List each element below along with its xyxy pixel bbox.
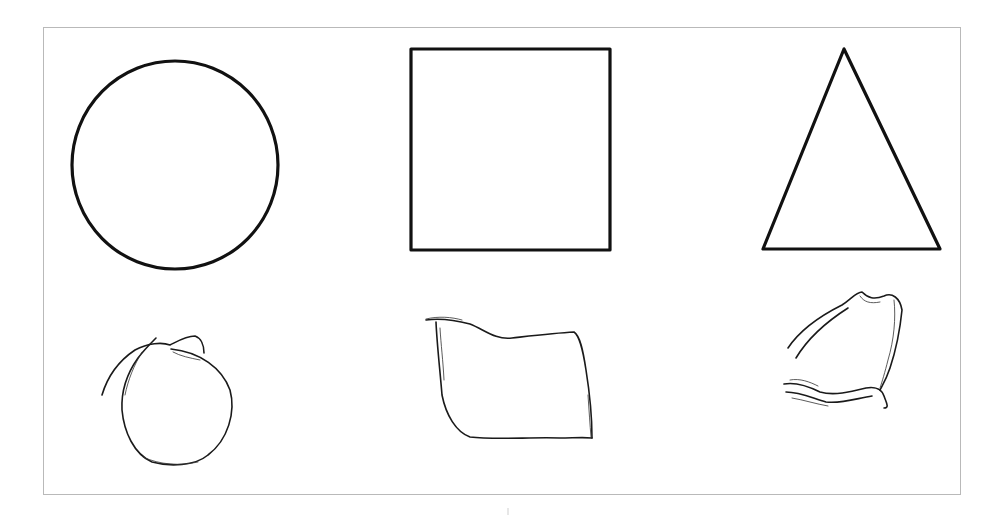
sketched-square: [426, 317, 592, 438]
sketch-row: [102, 292, 902, 465]
reference-square: [411, 49, 610, 250]
reference-row: [72, 49, 940, 269]
shapes-figure: [0, 0, 997, 523]
sketched-triangle: [784, 292, 902, 408]
sketched-circle: [102, 336, 232, 465]
reference-circle: [72, 61, 278, 269]
reference-triangle: [763, 49, 940, 249]
